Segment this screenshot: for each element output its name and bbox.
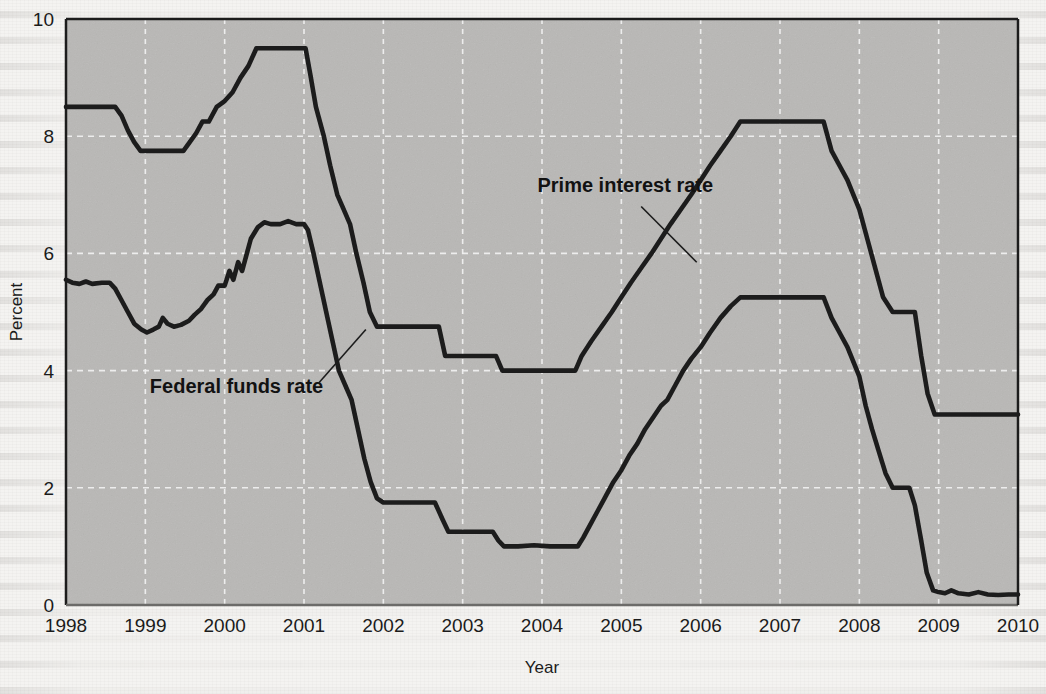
interest-rate-line-chart: 1998199920002001200220032004200520062007… [0,0,1046,694]
x-tick-label: 2007 [759,615,801,636]
figure-page: 1998199920002001200220032004200520062007… [0,0,1046,694]
x-tick-label: 1998 [45,615,87,636]
x-tick-label: 1999 [124,615,166,636]
x-tick-label: 2003 [442,615,484,636]
annotation-label: Federal funds rate [150,375,323,397]
y-axis-title: Percent [7,282,26,341]
y-tick-label: 0 [43,595,54,616]
x-tick-label: 2010 [997,615,1039,636]
x-tick-label: 2004 [521,615,564,636]
y-axis-tick-labels: 0246810 [33,9,55,616]
y-tick-label: 6 [43,243,54,264]
y-tick-label: 4 [43,361,54,382]
y-tick-label: 2 [43,478,54,499]
y-tick-label: 8 [43,126,54,147]
x-axis-tick-labels: 1998199920002001200220032004200520062007… [45,615,1039,636]
x-tick-label: 2009 [918,615,960,636]
x-tick-label: 2002 [362,615,404,636]
y-tick-label: 10 [33,9,54,30]
x-axis-title: Year [525,658,560,677]
x-tick-label: 2001 [283,615,325,636]
x-tick-label: 2005 [600,615,642,636]
x-tick-label: 2000 [204,615,246,636]
annotation-label: Prime interest rate [537,174,713,196]
x-tick-label: 2006 [680,615,722,636]
x-tick-label: 2008 [838,615,880,636]
